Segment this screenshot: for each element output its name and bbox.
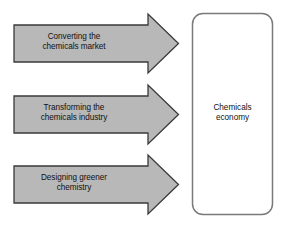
diagram-canvas: Converting the chemicals market Transfor… xyxy=(0,0,288,229)
target-box-label: Chemicals economy xyxy=(192,103,273,124)
